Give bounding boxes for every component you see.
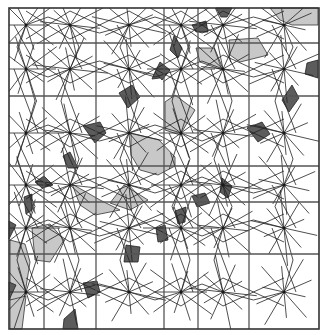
tile-edge — [17, 133, 26, 185]
tile-edge — [280, 190, 284, 228]
tile-edge — [26, 133, 50, 151]
tile-edge — [129, 15, 153, 25]
tile-edge — [26, 125, 70, 133]
tile-edge — [211, 292, 223, 319]
light-region — [131, 133, 175, 175]
tile-edge — [117, 25, 141, 69]
tile-edge — [14, 69, 38, 133]
tile-edge — [272, 185, 296, 228]
tile-edge — [129, 292, 131, 314]
light-region — [196, 48, 222, 70]
tile-edge — [9, 69, 26, 91]
dark-rhombus — [282, 85, 299, 112]
tile-edge — [181, 25, 190, 69]
tile-edge — [284, 133, 304, 156]
tile-edge — [284, 133, 319, 141]
tile-edge — [181, 228, 205, 246]
tile-edge — [120, 25, 129, 69]
tile-edge — [272, 133, 296, 185]
tile-edge — [181, 133, 209, 153]
tile-edge — [284, 280, 312, 292]
tile-edge — [284, 25, 306, 51]
tile-edge — [281, 35, 284, 69]
tile-edge — [181, 284, 223, 292]
tile-edge — [181, 185, 199, 198]
tile-edge — [284, 228, 293, 292]
tile-edge — [181, 69, 193, 105]
tile-edge — [26, 25, 34, 50]
tile-edge — [17, 25, 26, 69]
tile-edge — [284, 25, 293, 69]
tile-edge — [70, 69, 108, 73]
tile-edge — [197, 69, 223, 84]
tile-edge — [37, 25, 70, 44]
tile-edge — [284, 185, 309, 214]
dark-rhombus — [156, 225, 168, 242]
tile-edge — [209, 185, 223, 216]
tile-edge — [181, 292, 190, 321]
tile-edge — [284, 228, 317, 235]
tile-edge — [40, 289, 70, 292]
tile-edge — [70, 61, 129, 69]
tile-edge — [112, 292, 129, 321]
tile-edge — [275, 185, 284, 228]
tile-edge — [163, 172, 181, 185]
tile-edge — [284, 292, 306, 318]
tile-edge — [181, 228, 190, 292]
tile-edge — [172, 263, 181, 292]
tile-edge — [26, 17, 70, 25]
tile-edge — [284, 171, 315, 185]
tile-edge — [181, 133, 190, 185]
light-region — [32, 224, 64, 262]
tile-edge — [58, 25, 82, 69]
tile-edge — [26, 292, 34, 317]
tile-edge — [127, 8, 129, 25]
light-region — [10, 296, 26, 329]
tile-edge — [284, 123, 308, 133]
tiling-diagram — [0, 0, 323, 335]
tile-edge — [37, 292, 70, 311]
tile-edge — [9, 8, 26, 25]
tile-edge — [170, 153, 181, 185]
tile-edge — [284, 259, 303, 292]
tile-edge — [129, 292, 181, 300]
tile-edge — [26, 69, 44, 82]
tile-edge — [94, 228, 129, 243]
tile-edge — [281, 155, 284, 185]
tile-edge — [223, 154, 237, 185]
tile-edge — [40, 133, 70, 150]
tile-edge — [211, 228, 235, 292]
tile-edge — [153, 292, 181, 312]
tile-edge — [284, 292, 286, 318]
tile-edge — [223, 228, 249, 231]
tile-edge — [211, 69, 235, 133]
tile-edge — [18, 8, 26, 25]
tile-edge — [265, 292, 284, 325]
tile-edge — [256, 25, 284, 37]
tile-edge — [129, 282, 153, 292]
tile-edge — [272, 25, 296, 69]
